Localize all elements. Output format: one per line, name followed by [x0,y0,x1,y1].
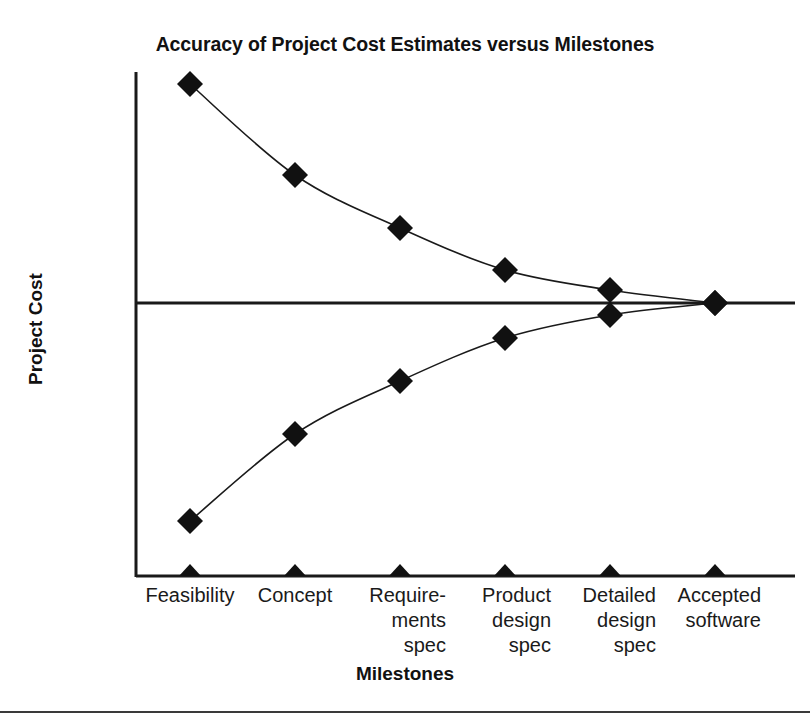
x-axis-tick-marker [704,564,726,576]
x-axis-tick-marker [494,564,516,576]
data-series [177,71,728,316]
x-axis-tick-labels: FeasibilityConceptRequire-mentsspecProdu… [0,583,810,663]
data-point-marker [597,277,623,303]
x-axis-ticks [179,564,726,576]
y-axis-tick-labels: 4x2x1.5x1.25x1x0.8x0.67x0.5x0.25x [0,0,130,600]
x-axis-title: Milestones [0,663,810,685]
x-axis-tick-marker [599,564,621,576]
x-axis-category-label-line: software [611,608,761,633]
data-series [177,290,728,534]
x-axis-tick-marker [389,564,411,576]
x-axis-category-label-line: Accepted [611,583,761,608]
axes [136,72,795,577]
data-point-marker [387,368,413,394]
series-line [190,84,715,303]
data-point-marker [387,215,413,241]
x-axis-category-label: Acceptedsoftware [611,583,761,633]
data-point-marker [177,508,203,534]
y-axis-title: Project Cost [25,249,47,409]
bottom-divider-rule [0,711,810,713]
x-axis-category-label-line: spec [506,633,656,658]
x-axis-tick-marker [284,564,306,576]
data-point-marker [282,162,308,188]
data-point-marker [492,257,518,283]
series-line [190,303,715,521]
data-point-marker [492,325,518,351]
data-point-marker [282,421,308,447]
data-point-marker [702,290,728,316]
data-point-marker [597,302,623,328]
chart-figure: Accuracy of Project Cost Estimates versu… [0,0,810,727]
x-axis-tick-marker [179,564,201,576]
